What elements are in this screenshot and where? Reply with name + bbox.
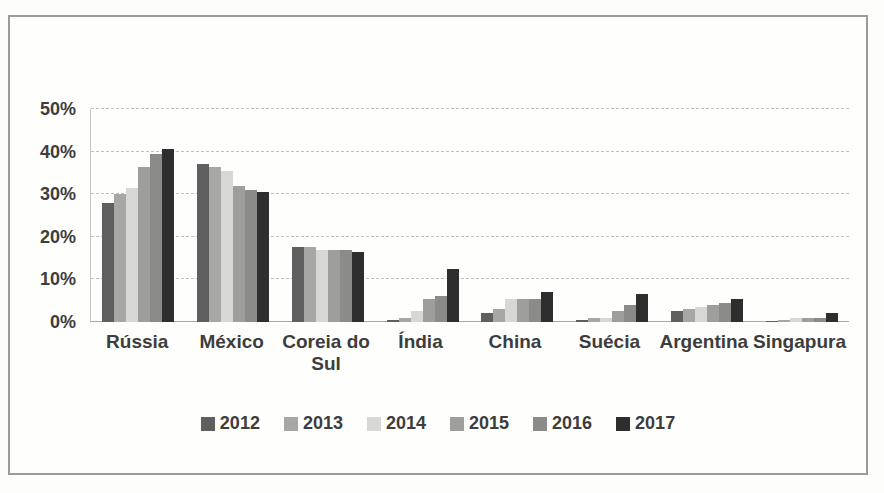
- legend-item-2016: 2016: [533, 413, 592, 434]
- bar-group-méxico: [186, 109, 281, 322]
- bar-group-suécia: [565, 109, 660, 322]
- bar-singapura-2012: [766, 321, 778, 322]
- bar-suécia-2017: [636, 294, 648, 322]
- legend-swatch-2015: [450, 417, 464, 431]
- bar-índia-2012: [387, 320, 399, 322]
- bar-singapura-2016: [814, 318, 826, 322]
- x-label-índia: Índia: [373, 331, 467, 375]
- bar-índia-2016: [435, 296, 447, 322]
- legend-label-2013: 2013: [303, 413, 343, 434]
- bar-china-2017: [541, 292, 553, 322]
- legend-label-2015: 2015: [469, 413, 509, 434]
- scanned-bar-chart-image: 0%10%20%30%40%50% RússiaMéxicoCoreia do …: [0, 0, 884, 493]
- bar-group-rússia: [91, 109, 186, 322]
- bar-rússia-2017: [162, 149, 174, 322]
- x-label-china: China: [468, 331, 562, 375]
- bar-china-2015: [517, 299, 529, 322]
- bar-índia-2017: [447, 269, 459, 322]
- bar-méxico-2016: [245, 190, 257, 322]
- y-tick-label-30pct: 30%: [40, 184, 76, 204]
- y-tick-label-10pct: 10%: [40, 269, 76, 289]
- legend-label-2012: 2012: [220, 413, 260, 434]
- legend-label-2014: 2014: [386, 413, 426, 434]
- bar-singapura-2014: [790, 318, 802, 322]
- legend-swatch-2014: [367, 417, 381, 431]
- bar-coreia-do-sul-2014: [316, 250, 328, 322]
- x-label-méxico: México: [184, 331, 278, 375]
- bar-argentina-2015: [707, 305, 719, 322]
- bar-rússia-2015: [138, 167, 150, 322]
- bar-group-china: [470, 109, 565, 322]
- legend-swatch-2013: [284, 417, 298, 431]
- bar-argentina-2014: [695, 307, 707, 322]
- legend-swatch-2012: [201, 417, 215, 431]
- bar-suécia-2014: [600, 318, 612, 322]
- x-axis-labels: RússiaMéxicoCoreia do SulÍndiaChinaSuéci…: [90, 331, 848, 375]
- y-tick-label-40pct: 40%: [40, 142, 76, 162]
- bar-méxico-2014: [221, 171, 233, 322]
- bar-méxico-2013: [209, 167, 221, 322]
- legend-item-2017: 2017: [616, 413, 675, 434]
- bar-méxico-2017: [257, 192, 269, 322]
- plot-area: [90, 109, 849, 322]
- legend-item-2013: 2013: [284, 413, 343, 434]
- legend-item-2015: 2015: [450, 413, 509, 434]
- y-tick-label-0pct: 0%: [50, 312, 76, 332]
- bar-suécia-2012: [576, 320, 588, 322]
- legend-swatch-2017: [616, 417, 630, 431]
- bar-coreia-do-sul-2012: [292, 247, 304, 322]
- bar-china-2016: [529, 299, 541, 322]
- legend-label-2016: 2016: [552, 413, 592, 434]
- x-label-rússia: Rússia: [90, 331, 184, 375]
- x-label-suécia: Suécia: [562, 331, 656, 375]
- chart-frame: 0%10%20%30%40%50% RússiaMéxicoCoreia do …: [8, 15, 868, 475]
- bar-rússia-2014: [126, 188, 138, 322]
- legend-swatch-2016: [533, 417, 547, 431]
- bar-group-argentina: [660, 109, 755, 322]
- bar-singapura-2017: [826, 313, 838, 322]
- bar-suécia-2015: [612, 311, 624, 322]
- x-label-singapura: Singapura: [751, 331, 848, 375]
- y-tick-label-50pct: 50%: [40, 99, 76, 119]
- y-tick-label-20pct: 20%: [40, 227, 76, 247]
- bar-group-coreia-do-sul: [281, 109, 376, 322]
- bar-argentina-2012: [671, 311, 683, 322]
- bar-índia-2013: [399, 318, 411, 322]
- bar-rússia-2013: [114, 194, 126, 322]
- bar-coreia-do-sul-2015: [328, 250, 340, 322]
- bar-rússia-2016: [150, 154, 162, 322]
- legend-item-2012: 2012: [201, 413, 260, 434]
- bar-suécia-2013: [588, 318, 600, 322]
- bar-argentina-2017: [731, 299, 743, 322]
- bar-china-2012: [481, 313, 493, 322]
- bar-suécia-2016: [624, 305, 636, 322]
- bar-méxico-2015: [233, 186, 245, 322]
- bar-índia-2014: [411, 311, 423, 322]
- bar-group-índia: [375, 109, 470, 322]
- bar-china-2013: [493, 309, 505, 322]
- bar-argentina-2013: [683, 309, 695, 322]
- bar-méxico-2012: [197, 164, 209, 322]
- bar-coreia-do-sul-2013: [304, 247, 316, 322]
- bar-rússia-2012: [102, 203, 114, 322]
- bar-argentina-2016: [719, 303, 731, 322]
- x-label-coreia-do-sul: Coreia do Sul: [279, 331, 373, 375]
- bar-coreia-do-sul-2016: [340, 250, 352, 322]
- bar-group-singapura: [754, 109, 849, 322]
- x-label-argentina: Argentina: [657, 331, 751, 375]
- legend: 201220132014201520162017: [10, 413, 866, 434]
- bar-singapura-2013: [778, 320, 790, 322]
- bar-china-2014: [505, 299, 517, 322]
- bar-índia-2015: [423, 299, 435, 322]
- legend-label-2017: 2017: [635, 413, 675, 434]
- bar-singapura-2015: [802, 318, 814, 322]
- y-axis: 0%10%20%30%40%50%: [10, 109, 82, 322]
- legend-item-2014: 2014: [367, 413, 426, 434]
- bar-coreia-do-sul-2017: [352, 252, 364, 322]
